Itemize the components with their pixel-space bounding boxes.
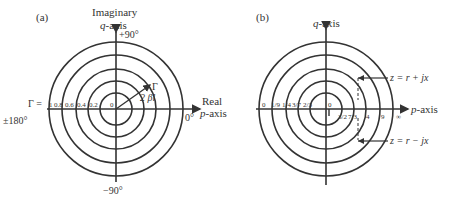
svg-text:0: 0: [328, 101, 332, 109]
panel-b-label: (b): [256, 11, 269, 24]
svg-text:0.6: 0.6: [65, 101, 74, 109]
gamma-vector-label: Γ: [152, 81, 158, 92]
imaginary-axis-title: Imaginary: [92, 6, 138, 18]
svg-text:4: 4: [366, 113, 370, 121]
svg-text:1: 1: [49, 101, 53, 109]
radial-tick-labels: 1 0.8 0.6 0.4 0.2 0: [49, 101, 114, 109]
svg-text:∞: ∞: [396, 113, 401, 121]
angle-2-beta-l: 2 βl: [140, 92, 155, 103]
angle-minus-90: −90°: [103, 185, 123, 196]
svg-text:9: 9: [381, 113, 385, 121]
angle-plus-90: +90°: [119, 29, 139, 40]
svg-text:0: 0: [110, 101, 114, 109]
svg-text:1/9: 1/9: [271, 101, 280, 109]
upper-annotation: z = r + jx: [389, 72, 429, 83]
svg-text:3/2: 3/2: [338, 113, 347, 121]
svg-text:0.8: 0.8: [54, 101, 63, 109]
panel-b: (b) q-axis p-axis 0 1/9 1/4 3/7 2/3 0 3/…: [256, 11, 438, 185]
left-tick-labels: 0 1/9 1/4 3/7 2/3 0: [262, 101, 332, 109]
svg-text:0.4: 0.4: [77, 101, 86, 109]
svg-text:3/7: 3/7: [292, 101, 301, 109]
p-axis-title: p-axis: [199, 107, 227, 119]
svg-text:1/4: 1/4: [282, 101, 291, 109]
angle-zero: 0°: [185, 112, 194, 123]
q-axis-title-b: q-axis: [313, 17, 340, 29]
svg-text:2/3: 2/3: [303, 101, 312, 109]
figure: (a) Imaginary q-axis +90° −90° 0° ±180° …: [0, 0, 460, 201]
svg-text:0: 0: [262, 101, 266, 109]
panel-a-label: (a): [36, 11, 49, 24]
svg-text:7/3: 7/3: [348, 113, 357, 121]
gamma-equals: Γ =: [28, 98, 42, 109]
angle-180: ±180°: [3, 115, 28, 126]
panel-a: (a) Imaginary q-axis +90° −90° 0° ±180° …: [3, 6, 227, 196]
real-axis-title: Real: [202, 95, 222, 107]
p-axis-title-b: p-axis: [410, 103, 438, 115]
svg-text:0.2: 0.2: [89, 101, 98, 109]
lower-annotation: z = r − jx: [389, 135, 429, 146]
